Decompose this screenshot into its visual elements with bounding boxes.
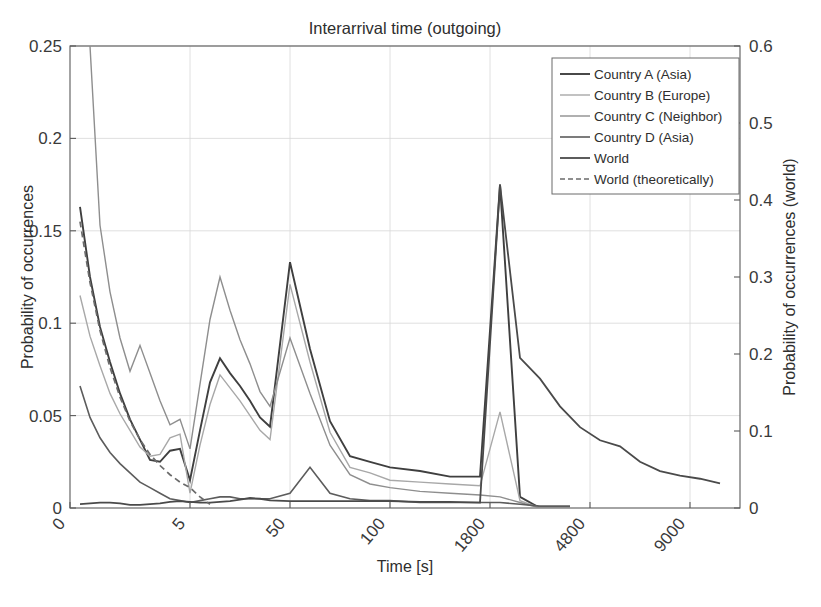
x-tick-label: 4800	[550, 514, 589, 555]
x-axis-ticks: 0550100180048009000	[48, 502, 690, 556]
y-tick-label-left: 0.1	[38, 314, 62, 333]
y-tick-label-right: 0	[749, 499, 758, 518]
chart-figure: 0550100180048009000 00.050.10.150.20.25 …	[0, 0, 821, 607]
interarrival-time-line-chart: 0550100180048009000 00.050.10.150.20.25 …	[0, 0, 821, 607]
legend-label-4: World	[594, 151, 629, 166]
y-tick-label-left: 0.05	[29, 407, 62, 426]
y-tick-label-left: 0	[53, 499, 62, 518]
y-tick-label-right: 0.1	[749, 422, 773, 441]
series-line-1	[80, 284, 570, 508]
x-tick-label: 1800	[450, 514, 489, 555]
y-tick-label-right: 0.3	[749, 268, 773, 287]
x-tick-label: 9000	[650, 514, 689, 555]
y-tick-label-left: 0.2	[38, 129, 62, 148]
legend: Country A (Asia)Country B (Europe)Countr…	[552, 58, 739, 194]
chart-title: Interarrival time (outgoing)	[309, 19, 502, 37]
legend-label-3: Country D (Asia)	[594, 130, 694, 145]
y-axis-title-right: Probability of occurrences (world)	[781, 158, 798, 395]
legend-label-5: World (theoretically)	[594, 172, 714, 187]
series-line-4	[80, 185, 720, 505]
y-tick-label-right: 0.2	[749, 345, 773, 364]
y-tick-label-right: 0.4	[749, 191, 773, 210]
x-tick-label: 5	[168, 514, 189, 533]
legend-label-2: Country C (Neighbor)	[594, 109, 722, 124]
x-axis-title: Time [s]	[377, 558, 433, 575]
y-axis-title-left: Probability of occurrences	[19, 185, 36, 369]
y-tick-label-right: 0.5	[749, 114, 773, 133]
legend-label-0: Country A (Asia)	[594, 67, 692, 82]
y-tick-label-right: 0.6	[749, 37, 773, 56]
legend-label-1: Country B (Europe)	[594, 88, 710, 103]
x-tick-label: 50	[262, 514, 289, 541]
x-tick-label: 100	[356, 514, 389, 548]
y-tick-label-left: 0.25	[29, 37, 62, 56]
